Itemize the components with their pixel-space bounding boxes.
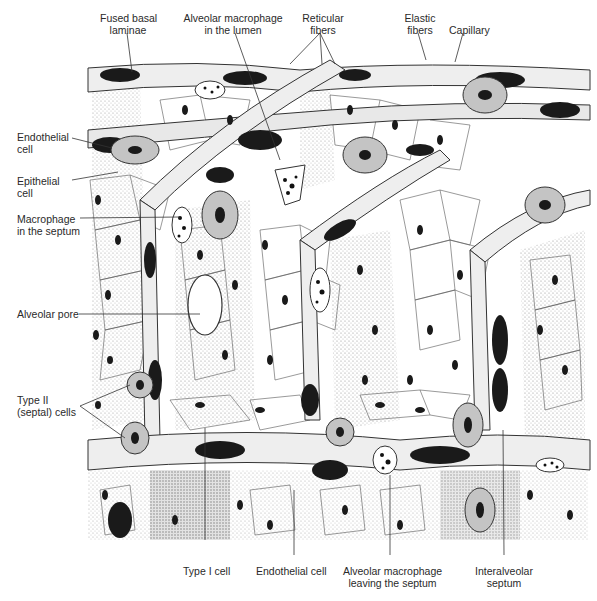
label-line: Type II [17, 394, 76, 406]
label-type-i-cell: Type I cell [183, 565, 230, 577]
label-line: Elastic [398, 12, 442, 24]
label-line: Endothelial [17, 131, 69, 143]
label-line: Endothelial cell [256, 565, 327, 577]
label-reticular-fibers: Reticular fibers [295, 12, 351, 36]
label-line: Interalveolar [472, 565, 536, 577]
label-capillary: Capillary [449, 24, 490, 36]
label-line: Capillary [449, 24, 490, 36]
label-line: cell [17, 187, 60, 199]
label-line: septum [472, 577, 536, 589]
label-line: Reticular [295, 12, 351, 24]
label-alveolar-macrophage-leaving: Alveolar macrophage leaving the septum [340, 565, 445, 589]
alveolar-septum-illustration [0, 0, 597, 601]
label-line: in the lumen [178, 24, 288, 36]
label-alveolar-pore: Alveolar pore [17, 308, 79, 320]
label-line: (septal) cells [17, 406, 76, 418]
label-fused-basal-laminae: Fused basal laminae [100, 12, 156, 36]
label-alveolar-macrophage-lumen: Alveolar macrophage in the lumen [178, 12, 288, 36]
label-line: laminae [100, 24, 156, 36]
label-type-ii-cells: Type II (septal) cells [17, 394, 76, 418]
label-line: fibers [398, 24, 442, 36]
label-endothelial-cell-bottom: Endothelial cell [256, 565, 327, 577]
label-line: cell [17, 143, 69, 155]
label-interalveolar-septum: Interalveolar septum [472, 565, 536, 589]
label-line: in the septum [17, 225, 80, 237]
label-line: Epithelial [17, 175, 60, 187]
label-endothelial-cell: Endothelial cell [17, 131, 69, 155]
label-line: Alveolar pore [17, 308, 79, 320]
label-line: Alveolar macrophage [340, 565, 445, 577]
label-line: Macrophage [17, 213, 80, 225]
label-line: Type I cell [183, 565, 230, 577]
label-line: fibers [295, 24, 351, 36]
label-line: Fused basal [100, 12, 156, 24]
label-line: Alveolar macrophage [178, 12, 288, 24]
label-macrophage-septum: Macrophage in the septum [17, 213, 80, 237]
label-elastic-fibers: Elastic fibers [398, 12, 442, 36]
label-epithelial-cell: Epithelial cell [17, 175, 60, 199]
label-line: leaving the septum [340, 577, 445, 589]
